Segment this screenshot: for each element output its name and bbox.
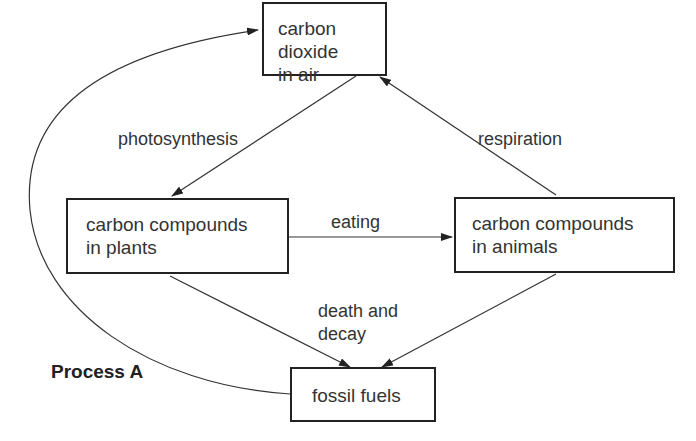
label-eating: eating xyxy=(331,211,380,233)
carbon-cycle-diagram: carbon dioxide in air carbon compounds i… xyxy=(0,0,696,441)
node-label: in plants xyxy=(86,236,287,259)
node-label: fossil fuels xyxy=(312,384,434,407)
label-decay: decay xyxy=(318,323,366,345)
node-label: in air xyxy=(278,63,385,86)
node-fossil-fuels: fossil fuels xyxy=(290,367,436,422)
node-label: carbon compounds xyxy=(86,213,287,236)
node-label: in animals xyxy=(472,235,673,258)
label-death-and: death and xyxy=(318,300,398,322)
label-respiration: respiration xyxy=(478,128,562,150)
node-carbon-dioxide-in-air: carbon dioxide in air xyxy=(262,2,387,76)
node-carbon-compounds-in-plants: carbon compounds in plants xyxy=(66,198,289,274)
animals-decay-arrow xyxy=(382,274,556,367)
node-carbon-compounds-in-animals: carbon compounds in animals xyxy=(454,197,675,273)
node-label: carbon compounds xyxy=(472,212,673,235)
label-process-a: Process A xyxy=(51,361,143,383)
node-label: carbon dioxide xyxy=(278,17,385,63)
label-photosynthesis: photosynthesis xyxy=(118,128,238,150)
